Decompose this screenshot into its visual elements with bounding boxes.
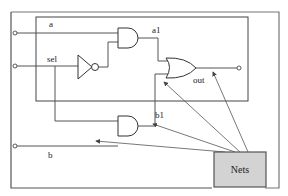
not-gate-icon xyxy=(78,55,92,79)
port-sel xyxy=(13,64,17,68)
module-boundary xyxy=(36,17,248,101)
arrow-to-net-out xyxy=(213,72,248,152)
label-out: out xyxy=(193,75,205,85)
mux-circuit-diagram: a sel b a1 b1 out Nets xyxy=(0,0,288,196)
outer-frame-bottom-left xyxy=(11,12,212,188)
wire-a1 xyxy=(138,38,168,61)
arrow-to-net-a1 xyxy=(164,82,240,152)
port-a xyxy=(13,31,17,35)
label-b: b xyxy=(48,150,53,160)
label-b1: b1 xyxy=(155,110,164,120)
port-out xyxy=(237,66,241,70)
wire-selbar xyxy=(99,42,118,67)
label-a1: a1 xyxy=(152,25,161,35)
outer-frame-bottom-right xyxy=(265,185,279,188)
or-gate-icon xyxy=(166,58,196,78)
label-sel: sel xyxy=(47,54,57,64)
nets-callout-label: Nets xyxy=(231,164,249,175)
not-gate-bubble xyxy=(92,64,99,71)
and-gate-b-icon xyxy=(118,116,138,136)
port-b xyxy=(13,144,17,148)
wire-sel-to-and-b xyxy=(55,66,118,121)
arrow-to-net-b1 xyxy=(153,124,235,152)
label-a: a xyxy=(49,19,53,29)
and-gate-a-icon xyxy=(118,28,138,48)
